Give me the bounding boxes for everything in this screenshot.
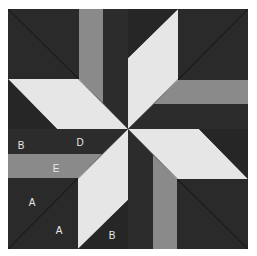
piece-label-c: C	[102, 184, 109, 195]
piece-label-d: D	[76, 137, 83, 148]
quilt-block-diagram	[0, 0, 257, 256]
piece-label-b-bottom: B	[109, 230, 116, 241]
piece-label-a-upper: A	[29, 197, 36, 208]
piece-label-b-left: B	[18, 140, 25, 151]
piece-label-a-lower: A	[56, 225, 63, 236]
piece-label-e: E	[53, 163, 60, 174]
